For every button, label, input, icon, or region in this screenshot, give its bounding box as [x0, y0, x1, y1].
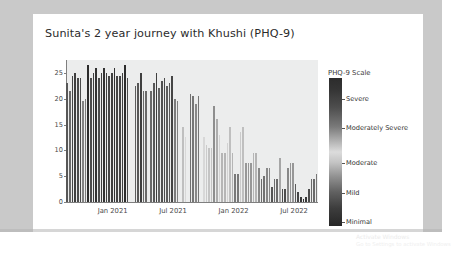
bar [150, 91, 152, 202]
bar [190, 94, 192, 202]
bar [95, 68, 97, 202]
bar [101, 73, 103, 202]
bar [253, 153, 255, 202]
bar [232, 153, 234, 202]
colorbar-tick-label: Minimal [346, 218, 372, 226]
y-tick-label: 25 [55, 69, 63, 77]
bar [258, 168, 260, 202]
y-tick-mark [64, 125, 66, 126]
bar [211, 148, 213, 202]
bar [287, 168, 289, 202]
bar [80, 78, 82, 202]
bar [290, 163, 292, 202]
bar [237, 174, 239, 202]
bar [221, 153, 223, 202]
bar [263, 176, 265, 202]
colorbar-tick-label: Mild [346, 189, 360, 197]
y-tick-label: 10 [55, 146, 63, 154]
bar [177, 101, 179, 202]
bar [284, 189, 286, 202]
bar [145, 91, 147, 202]
bar [274, 179, 276, 202]
bar [106, 73, 108, 202]
bar [261, 179, 263, 202]
x-tick-label: Jul 2022 [280, 207, 308, 215]
bar [111, 73, 113, 202]
bar [271, 187, 273, 202]
bar [182, 127, 184, 202]
bar [85, 99, 87, 202]
slide-card: Sunita's 2 year journey with Khushi (PHQ… [33, 14, 423, 229]
activate-windows-subtext: Go to Settings to activate Windows [356, 241, 451, 247]
bar [72, 76, 74, 203]
bar [140, 73, 142, 202]
bar [66, 83, 68, 202]
bar [137, 83, 139, 202]
bar [250, 163, 252, 202]
bar [242, 127, 244, 202]
bar [300, 197, 302, 202]
y-tick-label: 0 [59, 198, 63, 206]
bar [87, 65, 89, 202]
bar [116, 76, 118, 203]
bar [213, 106, 215, 202]
colorbar-gradient [329, 78, 342, 226]
bar [308, 189, 310, 202]
bar [295, 184, 297, 202]
bar [208, 148, 210, 202]
bar [108, 76, 110, 203]
bar [169, 83, 171, 202]
bar [143, 91, 145, 202]
bar [316, 174, 318, 202]
bar [77, 78, 79, 202]
colorbar-tick-mark [342, 99, 345, 100]
y-tick-mark [64, 202, 66, 203]
y-tick-mark [64, 99, 66, 100]
y-tick-label: 20 [55, 95, 63, 103]
bar [297, 192, 299, 202]
bar [90, 78, 92, 202]
y-tick-mark [64, 176, 66, 177]
bar [292, 163, 294, 202]
bar [255, 153, 257, 202]
bar [192, 96, 194, 202]
bar-series [66, 60, 318, 202]
bar [269, 168, 271, 202]
slide-card-edge [33, 229, 423, 232]
bar [195, 104, 197, 202]
bar [303, 199, 305, 202]
bar [305, 197, 307, 202]
bar [153, 83, 155, 202]
bar [93, 73, 95, 202]
bar [74, 73, 76, 202]
activate-windows-watermark: Activate Windows [356, 233, 409, 240]
bar [114, 68, 116, 202]
bar [171, 76, 173, 203]
bar [127, 78, 129, 202]
bar [161, 81, 163, 202]
bar [240, 132, 242, 202]
bar [216, 119, 218, 202]
bar [156, 73, 158, 202]
bar [166, 86, 168, 202]
bar [266, 168, 268, 202]
bar [219, 135, 221, 202]
y-tick-mark [64, 73, 66, 74]
bar [279, 158, 281, 202]
bar [245, 163, 247, 202]
y-tick-label: 5 [59, 172, 63, 180]
bar [174, 99, 176, 202]
bar [248, 163, 250, 202]
bar [229, 127, 231, 202]
colorbar-tick-mark [342, 222, 345, 223]
legend-title: PHQ-9 Scale [328, 69, 371, 77]
bar [311, 179, 313, 202]
bar [119, 76, 121, 203]
colorbar-tick-label: Severe [346, 95, 369, 103]
x-axis-line [66, 202, 318, 203]
colorbar-tick-label: Moderate [346, 159, 377, 167]
bar [282, 189, 284, 202]
bar [164, 78, 166, 202]
bar [313, 179, 315, 202]
